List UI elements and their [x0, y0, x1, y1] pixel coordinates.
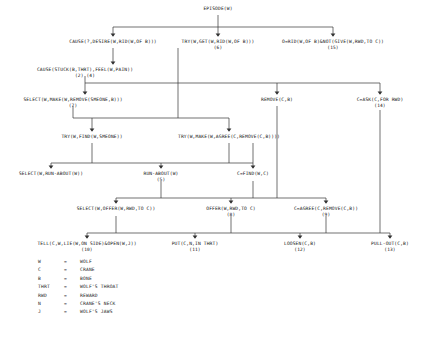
node-offer: OFFER(W,RWD,TO C) (8)	[206, 206, 256, 217]
node-number: (14)	[357, 103, 404, 109]
node-label: SELECT(W,RUN-ABOUT(W))	[19, 171, 83, 177]
legend-equals: =	[64, 258, 80, 266]
node-label: RUN-ABOUT(W)	[144, 171, 179, 177]
legend-equals: =	[64, 308, 80, 316]
node-label: TRY(W,GET(W,RID(W,OF B)))	[182, 39, 255, 45]
node-label: EPISODE(W)	[203, 6, 232, 12]
node-loosen: LOOSEN(C,B) (12)	[284, 241, 316, 252]
legend-equals: =	[64, 283, 80, 291]
node-put: PUT(C,N,IN THRT) (11)	[172, 241, 219, 252]
node-label: SELECT(W,MAKE(W,REMOVE(SMEONE,B)))	[23, 97, 122, 103]
node-number: (9)	[294, 212, 358, 218]
legend-row: C = CRANE	[38, 266, 119, 274]
node-tell: TELL(C,W,LIE(W,ON SIDE)&OPEN(W,J)) (10)	[37, 241, 136, 252]
node-number: (11)	[172, 247, 219, 253]
legend-symbol: C	[38, 266, 64, 274]
legend-symbol: THRT	[38, 283, 64, 291]
node-label: CAUSE(STUCK(B,THRT),FEEL(W,PAIN))	[37, 67, 133, 73]
node-try-get-rid: TRY(W,GET(W,RID(W,OF B))) (6)	[182, 39, 255, 50]
node-number: (5)	[144, 177, 179, 183]
node-label: C=ASK(C,FOR RWD)	[357, 97, 404, 103]
legend-symbol: W	[38, 258, 64, 266]
legend-row: W = WOLF	[38, 258, 119, 266]
node-number: (6)	[182, 45, 255, 51]
legend-meaning: REWARD	[80, 292, 119, 300]
node-number: (15)	[282, 45, 384, 51]
legend-meaning: WOLF'S THROAT	[80, 283, 119, 291]
node-label: TRY(W,FIND(W,SMEONE))	[61, 134, 122, 140]
node-number: (7)	[23, 103, 122, 109]
legend-row: RWD = REWARD	[38, 292, 119, 300]
legend-symbol: RWD	[38, 292, 64, 300]
legend-row: THRT = WOLF'S THROAT	[38, 283, 119, 291]
node-episode: EPISODE(W)	[203, 6, 232, 12]
legend-meaning: CRANE'S NECK	[80, 300, 119, 308]
legend-equals: =	[64, 266, 80, 274]
node-c-ask: C=ASK(C,FOR RWD) (14)	[357, 97, 404, 108]
legend-meaning: WOLF	[80, 258, 119, 266]
node-label: TRY(W,MAKE(W,AGREE(C,REMOVE(C,B))))	[178, 134, 280, 140]
node-outcome-rid: O=RID(W,OF B)&NOT(GIVE(W,RWD,TO C)) (15)	[282, 39, 384, 50]
legend-row: B = BONE	[38, 275, 119, 283]
node-select-make-remove: SELECT(W,MAKE(W,REMOVE(SMEONE,B))) (7)	[23, 97, 122, 108]
node-number: (13)	[371, 247, 409, 253]
node-label: C=AGREE(C,REMOVE(C,B))	[294, 206, 358, 212]
node-label: PULL-OUT(C,B)	[371, 241, 409, 247]
node-label: O=RID(W,OF B)&NOT(GIVE(W,RWD,TO C))	[282, 39, 384, 45]
legend-table: W = WOLF C = CRANE B = BONE THRT = W	[38, 258, 119, 317]
node-label: OFFER(W,RWD,TO C)	[206, 206, 256, 212]
node-pull-out: PULL-OUT(C,B) (13)	[371, 241, 409, 252]
diagram-canvas: EPISODE(W) CAUSE(?,DESIRE(W,RID(W,OF B))…	[0, 0, 428, 344]
node-number: (12)	[284, 247, 316, 253]
node-label: PUT(C,N,IN THRT)	[172, 241, 219, 247]
node-cause-stuck: CAUSE(STUCK(B,THRT),FEEL(W,PAIN)) (2) (4…	[37, 67, 133, 78]
node-label: CAUSE(?,DESIRE(W,RID(W,OF B)))	[69, 39, 156, 45]
legend-row: J = WOLF'S JAWS	[38, 308, 119, 316]
node-c-agree: C=AGREE(C,REMOVE(C,B)) (9)	[294, 206, 358, 217]
legend-meaning: CRANE	[80, 266, 119, 274]
node-label: TELL(C,W,LIE(W,ON SIDE)&OPEN(W,J))	[37, 241, 136, 247]
legend-equals: =	[64, 275, 80, 283]
node-label: LOOSEN(C,B)	[284, 241, 316, 247]
node-remove-cb: REMOVE(C,B)	[261, 97, 293, 103]
node-number: (8)	[206, 212, 256, 218]
legend-equals: =	[64, 300, 80, 308]
legend-row: N = CRANE'S NECK	[38, 300, 119, 308]
node-c-find: C=FIND(W,C)	[237, 171, 269, 177]
legend-symbol: J	[38, 308, 64, 316]
node-select-run-about: SELECT(W,RUN-ABOUT(W))	[19, 171, 83, 177]
node-label: C=FIND(W,C)	[237, 171, 269, 177]
node-label: SELECT(W,OFFER(W,RWD,TO C))	[77, 206, 156, 212]
node-label: REMOVE(C,B)	[261, 97, 293, 103]
legend-symbol: B	[38, 275, 64, 283]
legend-symbol: N	[38, 300, 64, 308]
node-try-make-agree: TRY(W,MAKE(W,AGREE(C,REMOVE(C,B))))	[178, 134, 280, 140]
symbol-legend: W = WOLF C = CRANE B = BONE THRT = W	[38, 258, 119, 317]
node-select-offer: SELECT(W,OFFER(W,RWD,TO C))	[77, 206, 156, 212]
node-number: (2) (4)	[37, 73, 133, 79]
node-number: (10)	[37, 247, 136, 253]
node-cause-desire: CAUSE(?,DESIRE(W,RID(W,OF B)))	[69, 39, 156, 45]
legend-meaning: WOLF'S JAWS	[80, 308, 119, 316]
node-try-find: TRY(W,FIND(W,SMEONE))	[61, 134, 122, 140]
legend-meaning: BONE	[80, 275, 119, 283]
node-run-about: RUN-ABOUT(W) (5)	[144, 171, 179, 182]
legend-equals: =	[64, 292, 80, 300]
